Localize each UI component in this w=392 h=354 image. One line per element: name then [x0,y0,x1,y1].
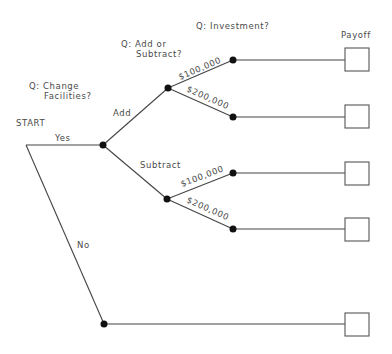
payoff-box-1 [345,48,369,71]
payoff-box-2 [345,105,369,128]
question-1-line-1: Q: Change [29,81,79,91]
decision-node-subtract [164,196,171,203]
edge-label-yes: Yes [54,133,71,143]
node-add-100k [230,57,237,64]
start-label: START [16,118,45,128]
edge-label-add: Add [113,108,131,118]
node-sub-200k [230,226,237,233]
edge-label-add-200k: $200,000 [185,84,231,112]
decision-node-add [165,85,172,92]
edge-label-subtract: Subtract [140,160,181,170]
decision-node-yes [100,142,107,149]
edge-label-no: No [77,240,90,250]
decision-tree-diagram: START Q: Change Facilities? Q: Add or Su… [0,0,392,354]
payoff-box-4 [345,218,369,241]
edge-label-add-100k: $100,000 [177,55,223,82]
node-no [101,321,108,328]
payoff-box-3 [345,162,369,185]
payoff-header: Payoff [341,30,371,40]
node-sub-100k [230,170,237,177]
edge-start-no [26,145,104,324]
node-add-200k [230,114,237,121]
question-2-line-2: Subtract? [136,49,182,59]
payoff-box-5 [345,313,369,336]
edge-subtract [103,145,167,199]
question-2-line-1: Q: Add or [121,39,167,49]
question-1-line-2: Facilities? [44,91,92,101]
question-3: Q: Investment? [196,21,269,31]
